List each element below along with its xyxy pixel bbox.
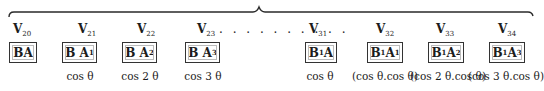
vector-label-v20: V20 bbox=[13, 22, 31, 38]
coefficient-label-v23: cos 3 θ bbox=[184, 70, 221, 82]
coefficient-label-v21: cos θ bbox=[66, 70, 93, 82]
term-box-b1a3: B1A3 bbox=[489, 42, 525, 63]
coefficient-label-v32: (cos θ.cos θ) bbox=[352, 70, 418, 82]
coefficient-label-v34: (cos 3 θ.cos θ) bbox=[468, 70, 544, 82]
term-box-ba: BA bbox=[9, 42, 37, 63]
vector-label-v22: V22 bbox=[137, 22, 155, 38]
coefficient-label-v22: cos 2 θ bbox=[121, 70, 158, 82]
vector-label-v23: V23 bbox=[197, 22, 215, 38]
vector-label-v33: V33 bbox=[436, 22, 454, 38]
vector-label-v31: V31 bbox=[309, 22, 327, 38]
term-box-ba3: B A3 bbox=[185, 42, 220, 63]
term-box-b1a2: B1A2 bbox=[428, 42, 464, 63]
term-box-ba1: B A1 bbox=[62, 42, 97, 63]
term-box-b1a1: B1A1 bbox=[367, 42, 403, 63]
vector-label-v21: V21 bbox=[78, 22, 96, 38]
curly-brace bbox=[0, 0, 540, 20]
vector-label-v32: V32 bbox=[376, 22, 394, 38]
coefficient-label-v31: cos θ bbox=[306, 70, 333, 82]
term-box-ba2: B A2 bbox=[122, 42, 157, 63]
term-box-b1a: B1 A bbox=[305, 42, 337, 63]
vector-label-v34: V34 bbox=[498, 22, 516, 38]
ellipsis: . . . . . . . . . . bbox=[219, 22, 348, 36]
